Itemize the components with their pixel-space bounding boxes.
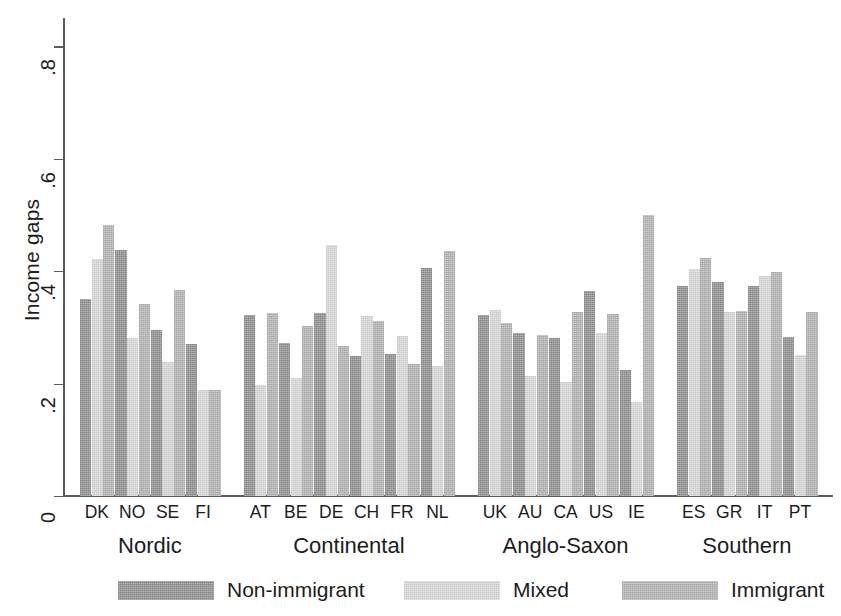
group-label-southern: Southern — [637, 533, 841, 559]
bar-uk-mixed — [490, 310, 501, 496]
bar-pt-immigrant — [806, 312, 817, 496]
bar-no-mixed — [127, 338, 138, 496]
chart-legend: Non-immigrantMixedImmigrant — [0, 578, 841, 608]
y-tick-label: .4 — [37, 270, 60, 316]
x-tick-label-ie: IE — [614, 502, 660, 523]
y-tick-label: .8 — [37, 45, 60, 91]
bar-de-immigrant — [338, 346, 349, 496]
bar-at-mixed — [255, 385, 266, 496]
legend-swatch-imm — [622, 581, 718, 600]
bar-pt-mixed — [795, 355, 806, 496]
bar-se-mixed — [162, 362, 173, 496]
bar-us-mixed — [596, 333, 607, 496]
bar-es-non-immigrant — [677, 286, 688, 496]
bar-fi-non-immigrant — [186, 344, 197, 496]
bar-no-non-immigrant — [115, 250, 126, 496]
bar-be-immigrant — [302, 326, 313, 496]
bar-nl-immigrant — [444, 251, 455, 496]
bar-fi-immigrant — [209, 390, 220, 496]
plot-area: 0.2.4.6.8 — [63, 18, 833, 496]
y-tick-label: .2 — [37, 382, 60, 428]
income-gaps-bar-chart: Income gaps 0.2.4.6.8 DKNOSEFIATBEDECHFR… — [0, 0, 841, 616]
bar-au-mixed — [525, 376, 536, 496]
bar-ie-mixed — [631, 402, 642, 496]
bar-ch-non-immigrant — [350, 356, 361, 496]
y-tick-.8: .8 — [54, 46, 63, 47]
bar-dk-mixed — [92, 259, 103, 496]
y-tick-.4: .4 — [54, 271, 63, 272]
x-tick-label-pt: PT — [777, 502, 823, 523]
legend-swatch-mix — [404, 581, 500, 600]
bar-de-mixed — [326, 245, 337, 496]
bar-ie-immigrant — [643, 215, 654, 496]
bar-fr-immigrant — [408, 364, 419, 496]
legend-entry-non-immigrant: Non-immigrant — [118, 578, 365, 602]
x-tick-label-fi: FI — [180, 502, 226, 523]
bar-be-mixed — [291, 378, 302, 496]
bar-ca-immigrant — [572, 312, 583, 496]
x-tick-label-nl: NL — [415, 502, 461, 523]
bar-ie-non-immigrant — [620, 370, 631, 496]
bar-gr-mixed — [724, 312, 735, 496]
bar-gr-non-immigrant — [712, 282, 723, 496]
bar-ch-immigrant — [373, 321, 384, 496]
bar-ca-non-immigrant — [549, 338, 560, 496]
y-tick-label: .6 — [37, 157, 60, 203]
bar-us-immigrant — [607, 314, 618, 496]
bar-us-non-immigrant — [584, 291, 595, 496]
bar-au-non-immigrant — [513, 333, 524, 496]
bar-fi-mixed — [198, 390, 209, 496]
y-tick-.2: .2 — [54, 384, 63, 385]
bar-it-immigrant — [771, 272, 782, 496]
bar-ch-mixed — [361, 316, 372, 496]
bars-layer — [63, 18, 833, 496]
bar-it-non-immigrant — [748, 286, 759, 496]
legend-label: Immigrant — [731, 578, 824, 602]
legend-entry-mixed: Mixed — [404, 578, 569, 602]
bar-fr-mixed — [397, 336, 408, 496]
bar-pt-non-immigrant — [783, 337, 794, 496]
bar-uk-non-immigrant — [478, 315, 489, 496]
bar-fr-non-immigrant — [385, 354, 396, 496]
legend-label: Non-immigrant — [227, 578, 365, 602]
bar-es-mixed — [689, 269, 700, 496]
bar-nl-non-immigrant — [421, 268, 432, 496]
bar-se-immigrant — [174, 290, 185, 496]
bar-be-non-immigrant — [279, 343, 290, 496]
bar-no-immigrant — [139, 304, 150, 496]
y-tick-.6: .6 — [54, 159, 63, 160]
bar-nl-mixed — [432, 366, 443, 496]
bar-dk-immigrant — [103, 225, 114, 496]
bar-es-immigrant — [700, 258, 711, 496]
legend-entry-immigrant: Immigrant — [622, 578, 824, 602]
y-tick-0: 0 — [54, 496, 63, 497]
bar-gr-immigrant — [736, 311, 747, 496]
bar-it-mixed — [759, 276, 770, 496]
bar-dk-non-immigrant — [80, 299, 91, 496]
bar-au-immigrant — [537, 335, 548, 496]
bar-at-immigrant — [267, 313, 278, 496]
bar-ca-mixed — [560, 382, 571, 496]
bar-uk-immigrant — [501, 323, 512, 496]
bar-se-non-immigrant — [151, 330, 162, 496]
legend-label: Mixed — [513, 578, 569, 602]
legend-swatch-non — [118, 581, 214, 600]
bar-at-non-immigrant — [244, 315, 255, 496]
bar-de-non-immigrant — [314, 313, 325, 496]
